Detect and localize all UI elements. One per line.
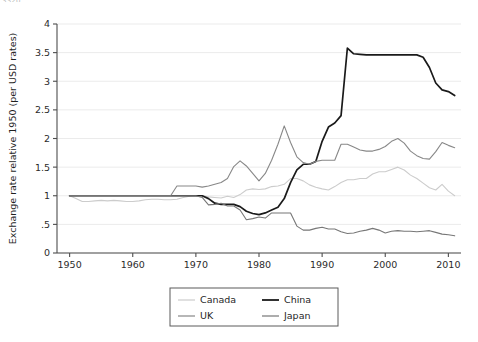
chart-svg: 0.511.522.533.54 19501960197019801990200… [0,0,478,342]
y-tick-label: 1.5 [35,162,50,173]
y-tick-label: 2.5 [35,104,50,115]
chart-legend[interactable]: CanadaChinaUKJapan [170,288,338,326]
y-axis-title-text: Exchange rate relative 1950 (per USD rat… [7,33,18,245]
x-tick-label: 1960 [121,259,145,270]
x-axis-ticks: 1950196019701980199020002010 [58,253,461,270]
x-tick-label: 1970 [184,259,208,270]
y-tick-label: .5 [41,219,50,230]
x-tick-label: 1990 [310,259,334,270]
x-tick-label: 2010 [436,259,460,270]
gridlines [57,24,461,253]
y-axis-title: Exchange rate relative 1950 (per USD rat… [7,33,18,245]
data-series-group [70,48,455,236]
y-axis-ticks: 0.511.522.533.54 [35,18,57,258]
legend-label-japan[interactable]: Japan [283,310,311,321]
x-tick-label: 2000 [373,259,397,270]
legend-label-canada[interactable]: Canada [200,294,236,305]
y-tick-label: 3 [44,76,50,87]
y-tick-label: 3.5 [35,47,50,58]
x-tick-label: 1950 [58,259,82,270]
legend-label-china[interactable]: China [284,294,311,305]
y-tick-label: 2 [44,133,50,144]
legend-label-uk[interactable]: UK [200,310,214,321]
exchange-rate-line-chart: 3320 0.511.522.533.54 195019601970198019… [0,0,478,342]
x-tick-label: 1980 [247,259,271,270]
y-tick-label: 1 [44,190,50,201]
series-line-uk [70,126,455,196]
cropped-header-text: 3320 [2,0,21,2]
y-tick-label: 4 [44,18,50,29]
y-tick-label: 0 [44,247,50,258]
legend-box [170,288,338,326]
